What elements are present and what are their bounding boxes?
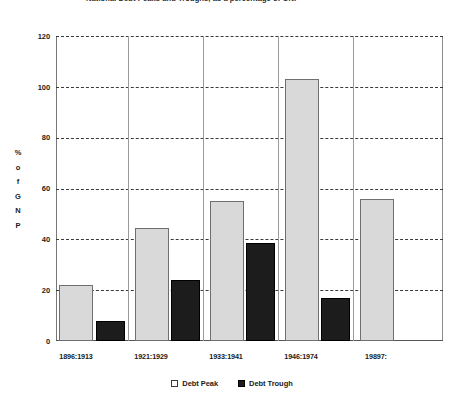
y-axis-title-char: o <box>10 161 26 176</box>
y-tick-label-100: 100 <box>16 83 50 92</box>
plot-area <box>56 36 443 341</box>
y-tick-label-80: 80 <box>16 133 50 142</box>
gridline-120 <box>56 36 443 37</box>
bar-peak-1933-1941 <box>210 201 244 341</box>
legend-swatch-icon-trough <box>238 380 245 387</box>
bar-trough-1896-1913 <box>96 321 125 341</box>
bar-trough-1933-1941 <box>246 243 275 341</box>
gridline-60 <box>56 189 443 190</box>
chart-page: National Debt Peaks and Troughs, as a pe… <box>0 0 464 410</box>
group-separator-2 <box>203 36 204 341</box>
legend-label-debt-peak: Debt Peak <box>182 379 218 388</box>
y-tick-label-0: 0 <box>16 337 50 346</box>
x-tick-label-1896-1913: 1896:1913 <box>40 352 112 361</box>
chart-title: National Debt Peaks and Troughs, as a pe… <box>86 0 386 3</box>
chart-legend: Debt Peak Debt Trough <box>0 379 464 388</box>
bar-peak-1896-1913 <box>59 285 93 341</box>
y-axis-title-char: % <box>10 146 26 161</box>
x-tick-label-1946-1974: 1946:1974 <box>265 352 337 361</box>
group-separator-4 <box>353 36 354 341</box>
legend-label-debt-trough: Debt Trough <box>249 379 293 388</box>
x-tick-label-1921-1929: 1921:1929 <box>115 352 187 361</box>
bar-peak-1946-1974 <box>285 79 319 341</box>
group-separator-1 <box>128 36 129 341</box>
gridline-100 <box>56 87 443 88</box>
group-separator-3 <box>278 36 279 341</box>
y-tick-label-40: 40 <box>16 235 50 244</box>
x-tick-label-1933-1941: 1933:1941 <box>190 352 262 361</box>
bar-trough-1921-1929 <box>171 280 200 341</box>
legend-swatch-icon-peak <box>171 380 178 387</box>
y-axis-title-char: P <box>10 219 26 234</box>
x-tick-label-19897: 19897: <box>340 352 412 361</box>
y-tick-label-20: 20 <box>16 286 50 295</box>
y-tick-label-60: 60 <box>16 184 50 193</box>
y-tick-label-120: 120 <box>16 32 50 41</box>
y-axis-title-char: N <box>10 204 26 219</box>
gridline-80 <box>56 138 443 139</box>
bar-peak-1921-1929 <box>135 228 169 341</box>
legend-item-debt-peak: Debt Peak <box>171 379 218 388</box>
legend-item-debt-trough: Debt Trough <box>238 379 293 388</box>
bar-trough-1946-1974 <box>321 298 350 341</box>
bar-peak-19897 <box>360 199 394 341</box>
